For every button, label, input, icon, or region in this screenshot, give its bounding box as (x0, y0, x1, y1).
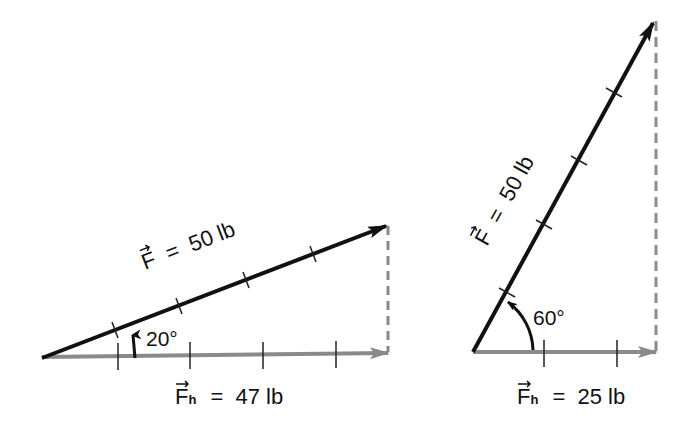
left-angle-arrow-icon (133, 335, 135, 358)
left-component-label: Fh = 47 lb (175, 381, 283, 409)
left-force-value: 50 lb (185, 216, 239, 256)
right-component-symbol: F (517, 384, 530, 409)
right-component-subscript: h (530, 392, 538, 407)
vector-diagrams: 20° F = 50 lb Fh = 47 lb (0, 0, 691, 442)
right-force-value: 50 lb (494, 151, 539, 205)
right-component-label: Fh = 25 lb (517, 381, 625, 409)
right-force-label: F = 50 lb (467, 150, 539, 250)
left-component-value: 47 lb (236, 384, 284, 409)
right-component-value: 25 lb (578, 384, 626, 409)
left-angle-label: 20° (146, 327, 178, 350)
svg-text:F = 50 lb: F = 50 lb (470, 151, 540, 249)
left-force-label: F = 50 lb (137, 213, 239, 274)
left-component-subscript: h (188, 392, 196, 407)
svg-text:Fh = 47 lb: Fh = 47 lb (175, 384, 283, 409)
left-diagram: 20° F = 50 lb Fh = 47 lb (42, 213, 388, 409)
svg-text:F = 50 lb: F = 50 lb (138, 216, 239, 275)
svg-text:Fh = 25 lb: Fh = 25 lb (517, 384, 625, 409)
right-angle-arc-icon (508, 302, 533, 350)
left-component-symbol: F (175, 384, 188, 409)
right-diagram: 60° F = 50 lb Fh = 25 lb (467, 21, 656, 409)
right-angle-label: 60° (533, 306, 565, 329)
